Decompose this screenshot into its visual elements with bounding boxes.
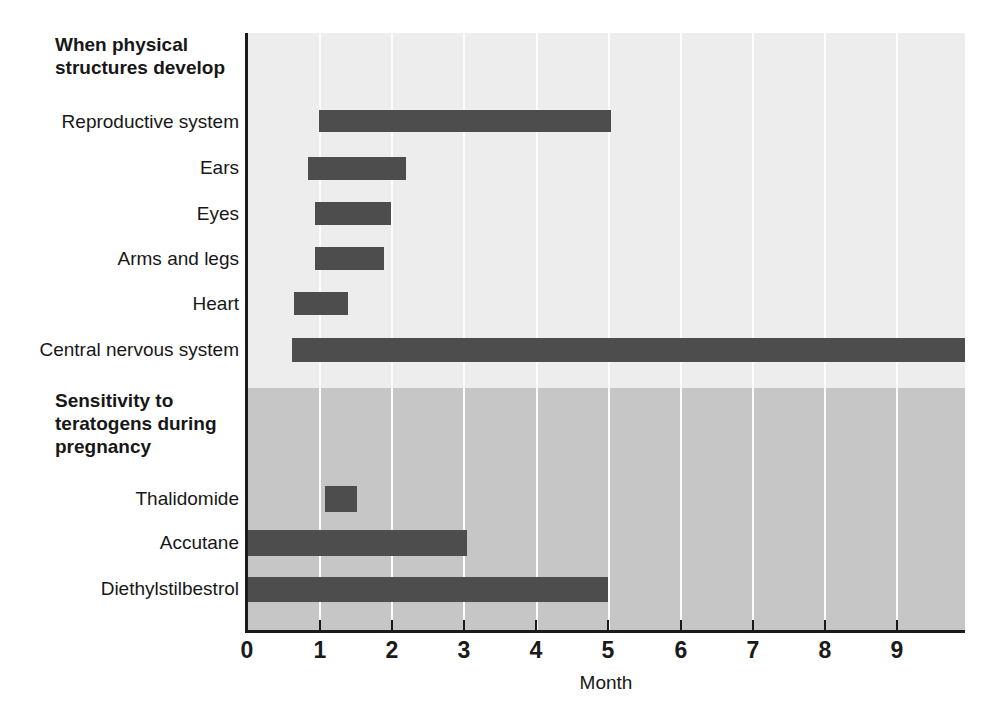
x-tick-0	[246, 620, 248, 631]
x-tick-6	[680, 620, 682, 631]
y-axis-line	[245, 33, 248, 630]
category-label-heart: Heart	[0, 292, 239, 315]
x-tick-label-9: 9	[882, 637, 912, 664]
x-tick-label-6: 6	[666, 637, 696, 664]
x-tick-label-3: 3	[449, 637, 479, 664]
category-label-arms-and-legs: Arms and legs	[0, 247, 239, 270]
category-label-central-nervous-system: Central nervous system	[0, 338, 239, 361]
x-axis-title: Month	[247, 672, 965, 694]
bar-heart	[294, 292, 348, 315]
x-tick-8	[824, 620, 826, 631]
plot-area	[247, 33, 965, 630]
bar-accutane	[247, 530, 467, 556]
bar-central-nervous-system	[292, 338, 965, 362]
chart-figure: When physical structures develop Reprodu…	[0, 0, 984, 705]
x-tick-label-1: 1	[305, 637, 335, 664]
x-tick-label-5: 5	[593, 637, 623, 664]
x-tick-7	[752, 620, 754, 631]
category-label-thalidomide: Thalidomide	[0, 487, 239, 510]
gridline-month-8	[824, 33, 826, 630]
x-tick-label-8: 8	[810, 637, 840, 664]
gridline-month-9	[896, 33, 898, 630]
x-tick-label-7: 7	[738, 637, 768, 664]
bar-arms-and-legs	[315, 247, 384, 270]
x-tick-9	[896, 620, 898, 631]
x-tick-2	[391, 620, 393, 631]
panel-heading-teratogen-sensitivity: Sensitivity to teratogens during pregnan…	[55, 389, 239, 458]
bar-diethylstilbestrol	[247, 577, 608, 602]
gridline-month-7	[752, 33, 754, 630]
x-tick-4	[535, 620, 537, 631]
category-label-accutane: Accutane	[0, 531, 239, 554]
x-tick-label-0: 0	[232, 637, 262, 664]
bar-reproductive-system	[319, 110, 611, 132]
bar-eyes	[315, 202, 391, 225]
gridline-month-6	[680, 33, 682, 630]
category-label-ears: Ears	[0, 156, 239, 179]
x-tick-3	[463, 620, 465, 631]
x-tick-label-2: 2	[377, 637, 407, 664]
category-label-reproductive-system: Reproductive system	[0, 110, 239, 133]
category-label-eyes: Eyes	[0, 202, 239, 225]
bar-thalidomide	[325, 486, 357, 512]
panel-heading-physical-structures: When physical structures develop	[55, 33, 239, 79]
bar-ears	[308, 157, 406, 180]
x-axis-line	[245, 630, 965, 633]
x-tick-label-4: 4	[521, 637, 551, 664]
x-tick-1	[319, 620, 321, 631]
x-tick-5	[607, 620, 609, 631]
category-label-diethylstilbestrol: Diethylstilbestrol	[0, 577, 239, 600]
